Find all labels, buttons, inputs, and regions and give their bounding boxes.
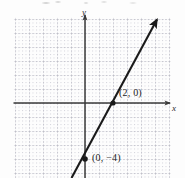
point-x-intercept [110, 100, 115, 105]
point-label-y-intercept: (0, −4) [92, 153, 121, 163]
point-label-x-intercept: (2, 0) [119, 88, 142, 98]
point-y-intercept [82, 156, 88, 162]
x-axis-label: x [172, 104, 176, 113]
coordinate-plane-figure: y x (2, 0) (0, −4) [0, 0, 185, 178]
y-axis-label: y [82, 8, 86, 17]
